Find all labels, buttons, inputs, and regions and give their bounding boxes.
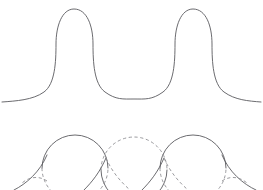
curve-diagram [0, 0, 263, 190]
figure-canvas [0, 0, 263, 190]
